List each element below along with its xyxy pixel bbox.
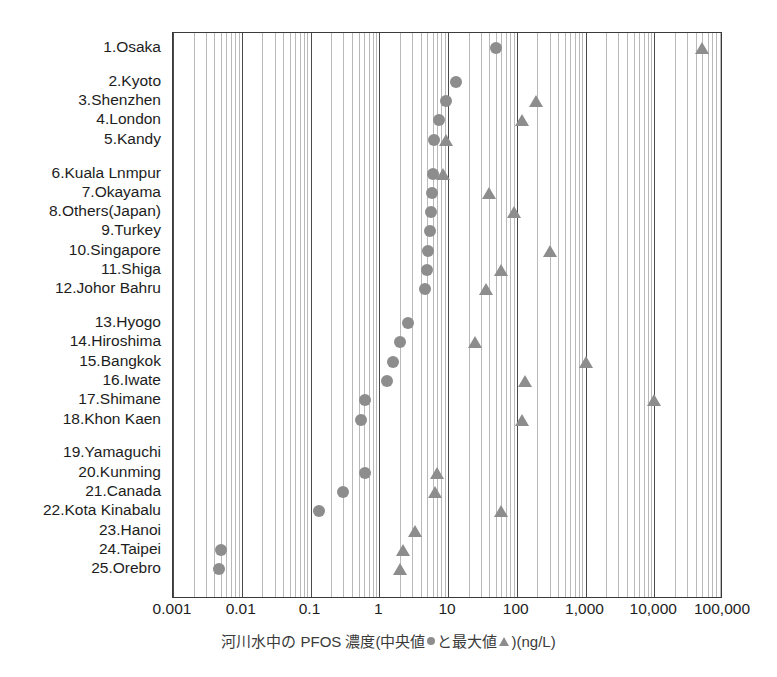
maximum-point xyxy=(436,168,450,180)
maximum-point xyxy=(396,544,410,556)
caption-mid: と最大値 xyxy=(437,633,497,650)
x-tick-label: 0.001 xyxy=(153,600,192,618)
data-points xyxy=(173,33,721,597)
plot-area xyxy=(172,32,722,598)
median-point xyxy=(428,134,440,146)
median-point xyxy=(402,317,414,329)
category-label: 14.Hiroshima xyxy=(70,333,161,349)
median-point xyxy=(422,245,434,257)
category-label: 23.Hanoi xyxy=(99,522,161,538)
x-axis-caption: 河川水中の PFOS 濃度(中央値と最大値)(ng/L) xyxy=(0,630,777,651)
category-label: 5.Kandy xyxy=(104,131,161,147)
category-label: 6.Kuala Lnmpur xyxy=(52,165,161,181)
median-point xyxy=(433,114,445,126)
median-point xyxy=(215,544,227,556)
maximum-marker-icon xyxy=(499,637,509,646)
maximum-point xyxy=(439,134,453,146)
maximum-point xyxy=(479,283,493,295)
median-point xyxy=(381,375,393,387)
maximum-point xyxy=(408,525,422,537)
median-point xyxy=(313,505,325,517)
median-point xyxy=(355,414,367,426)
category-label: 20.Kunming xyxy=(78,464,161,480)
x-tick-label: 10,000 xyxy=(630,600,677,618)
x-tick-label: 1 xyxy=(374,600,383,618)
median-point xyxy=(425,206,437,218)
maximum-point xyxy=(430,467,444,479)
category-label: 7.Okayama xyxy=(82,184,161,200)
category-label: 15.Bangkok xyxy=(79,353,161,369)
category-label: 4.London xyxy=(96,111,161,127)
median-point xyxy=(424,225,436,237)
category-label: 17.Shimane xyxy=(78,391,161,407)
median-point xyxy=(440,95,452,107)
category-label: 2.Kyoto xyxy=(108,73,161,89)
maximum-point xyxy=(695,42,709,54)
category-label: 1.Osaka xyxy=(103,39,161,55)
category-label: 10.Singapore xyxy=(69,242,161,258)
x-tick-label: 100,000 xyxy=(694,600,750,618)
maximum-point xyxy=(507,206,521,218)
category-label: 18.Khon Kaen xyxy=(63,411,161,427)
x-tick-label: 0.01 xyxy=(226,600,256,618)
median-point xyxy=(359,394,371,406)
category-label: 24.Taipei xyxy=(99,541,161,557)
category-label: 21.Canada xyxy=(85,483,161,499)
caption-post: )(ng/L) xyxy=(511,633,555,650)
x-tick-label: 1,000 xyxy=(565,600,604,618)
median-point xyxy=(450,76,462,88)
chart-figure: 1.Osaka2.Kyoto3.Shenzhen4.London5.Kandy6… xyxy=(0,0,777,677)
maximum-point xyxy=(494,264,508,276)
maximum-point xyxy=(468,336,482,348)
median-point xyxy=(426,187,438,199)
x-axis-ticks: 0.0010.010.11101001,00010,000100,000 xyxy=(172,600,722,624)
median-point xyxy=(359,467,371,479)
caption-pre: 河川水中の PFOS 濃度(中央値 xyxy=(221,633,425,650)
median-point xyxy=(213,563,225,575)
x-tick-label: 100 xyxy=(503,600,529,618)
category-label: 9.Turkey xyxy=(101,222,161,238)
category-label: 13.Hyogo xyxy=(95,314,161,330)
maximum-point xyxy=(482,187,496,199)
median-point xyxy=(490,42,502,54)
maximum-point xyxy=(515,114,529,126)
category-label: 12.Johor Bahru xyxy=(55,280,161,296)
maximum-point xyxy=(428,486,442,498)
category-label: 11.Shiga xyxy=(101,261,161,277)
maximum-point xyxy=(579,356,593,368)
x-tick-label: 10 xyxy=(438,600,455,618)
maximum-point xyxy=(518,375,532,387)
category-label: 8.Others(Japan) xyxy=(49,203,161,219)
median-point xyxy=(394,336,406,348)
x-tick-label: 0.1 xyxy=(299,600,321,618)
category-labels: 1.Osaka2.Kyoto3.Shenzhen4.London5.Kandy6… xyxy=(0,0,170,600)
category-label: 19.Yamaguchi xyxy=(63,444,161,460)
maximum-point xyxy=(647,394,661,406)
category-label: 16.Iwate xyxy=(102,372,161,388)
category-label: 25.Orebro xyxy=(91,560,161,576)
maximum-point xyxy=(529,95,543,107)
median-marker-icon xyxy=(427,637,435,645)
median-point xyxy=(421,264,433,276)
maximum-point xyxy=(515,414,529,426)
median-point xyxy=(337,486,349,498)
category-label: 3.Shenzhen xyxy=(78,92,161,108)
median-point xyxy=(387,356,399,368)
category-label: 22.Kota Kinabalu xyxy=(43,502,161,518)
maximum-point xyxy=(543,245,557,257)
maximum-point xyxy=(393,563,407,575)
median-point xyxy=(419,283,431,295)
maximum-point xyxy=(494,505,508,517)
